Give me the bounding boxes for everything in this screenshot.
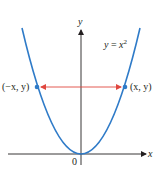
point-right <box>123 85 128 90</box>
y-axis-label: y <box>77 16 83 27</box>
parabola-diagram: y x 0 y = x2 (−x, y) (x, y) <box>0 0 156 177</box>
point-left-label: (−x, y) <box>2 81 29 93</box>
x-axis-label: x <box>147 148 153 159</box>
equation-label: y = x2 <box>103 38 128 50</box>
point-right-label: (x, y) <box>130 81 152 93</box>
origin-label: 0 <box>72 156 77 167</box>
point-left <box>35 85 40 90</box>
